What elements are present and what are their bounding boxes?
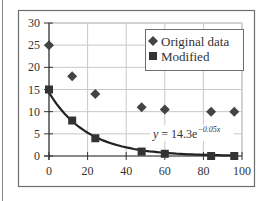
y-tick-label: 30 xyxy=(28,16,40,30)
square-marker xyxy=(207,152,215,160)
x-tick-label: 80 xyxy=(197,164,209,178)
square-marker xyxy=(91,134,99,142)
equation-main: = 14.3e xyxy=(158,127,197,141)
y-tick-label: 10 xyxy=(28,105,40,119)
y-tick-label: 0 xyxy=(34,149,40,163)
square-marker xyxy=(161,150,169,158)
y-tick-label: 25 xyxy=(28,38,40,52)
equation-annotation: y = 14.3e−0.05x xyxy=(150,125,234,141)
y-tick-label: 5 xyxy=(34,127,40,141)
x-tick-label: 100 xyxy=(233,164,251,178)
x-tick-label: 60 xyxy=(159,164,171,178)
y-tick-label: 15 xyxy=(28,83,40,97)
equation-exponent: −0.05x xyxy=(197,125,220,134)
square-icon xyxy=(149,52,157,60)
legend-label-original: Original data xyxy=(161,34,229,49)
square-marker xyxy=(45,86,53,94)
y-tick-label: 20 xyxy=(28,60,40,74)
x-tick-label: 0 xyxy=(46,164,52,178)
square-marker xyxy=(138,148,146,156)
x-tick-label: 20 xyxy=(82,164,94,178)
square-marker xyxy=(68,117,76,125)
legend: Original data Modified xyxy=(146,30,244,71)
square-marker xyxy=(230,152,238,160)
legend-label-modified: Modified xyxy=(161,49,210,64)
x-tick-label: 40 xyxy=(120,164,132,178)
chart: 020406080100051015202530 Original data M… xyxy=(0,0,270,201)
